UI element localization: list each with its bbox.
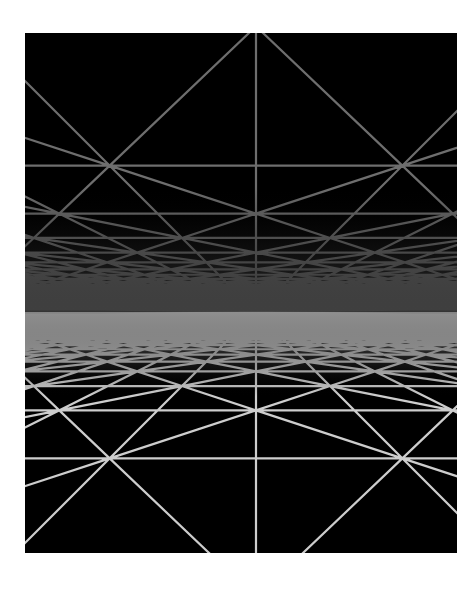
ceiling-haze bbox=[25, 33, 457, 312]
perspective-grid-image bbox=[25, 33, 457, 553]
floor-haze bbox=[25, 312, 457, 553]
wireframe-grid-canvas bbox=[25, 33, 457, 553]
